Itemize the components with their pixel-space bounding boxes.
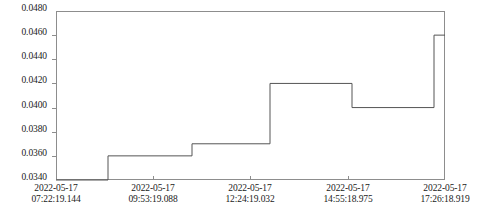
x-tick-mark bbox=[56, 176, 57, 180]
x-tick-label-time: 14:55:18.975 bbox=[323, 194, 372, 204]
y-tick-label: 0.0360 bbox=[21, 149, 47, 159]
y-tick-label: 0.0460 bbox=[21, 28, 47, 38]
x-tick-label: 2022-05-1709:53:19.088 bbox=[128, 183, 177, 204]
x-tick-label: 2022-05-1707:22:19.144 bbox=[31, 183, 80, 204]
x-tick-label-time: 12:24:19.032 bbox=[225, 194, 274, 204]
series-polyline bbox=[56, 35, 445, 180]
x-tick-label-time: 09:53:19.088 bbox=[128, 194, 177, 204]
y-tick-label: 0.0420 bbox=[21, 76, 47, 86]
x-tick-mark bbox=[445, 176, 446, 180]
x-tick-mark bbox=[153, 176, 154, 180]
x-tick-label: 2022-05-1717:26:18.919 bbox=[420, 183, 469, 204]
x-tick-label-date: 2022-05-17 bbox=[131, 183, 174, 193]
y-tick-label: 0.0400 bbox=[21, 101, 47, 111]
y-axis: 0.03400.03600.03800.04000.04200.04400.04… bbox=[0, 0, 56, 204]
x-tick-label: 2022-05-1712:24:19.032 bbox=[225, 183, 274, 204]
x-tick-mark bbox=[348, 176, 349, 180]
x-tick-label-date: 2022-05-17 bbox=[326, 183, 369, 193]
series-step-line bbox=[56, 11, 445, 180]
x-tick-label-date: 2022-05-17 bbox=[34, 183, 77, 193]
y-tick-label: 0.0440 bbox=[21, 52, 47, 62]
x-tick-mark bbox=[250, 176, 251, 180]
chart-container: 0.03400.03600.03800.04000.04200.04400.04… bbox=[0, 0, 479, 204]
x-tick-label-date: 2022-05-17 bbox=[423, 183, 466, 193]
y-tick-label: 0.0480 bbox=[21, 4, 47, 14]
x-axis: 2022-05-1707:22:19.1442022-05-1709:53:19… bbox=[0, 180, 479, 204]
x-tick-label-date: 2022-05-17 bbox=[228, 183, 271, 193]
x-tick-label: 2022-05-1714:55:18.975 bbox=[323, 183, 372, 204]
x-tick-label-time: 17:26:18.919 bbox=[420, 194, 469, 204]
x-tick-label-time: 07:22:19.144 bbox=[31, 194, 80, 204]
y-tick-label: 0.0380 bbox=[21, 125, 47, 135]
